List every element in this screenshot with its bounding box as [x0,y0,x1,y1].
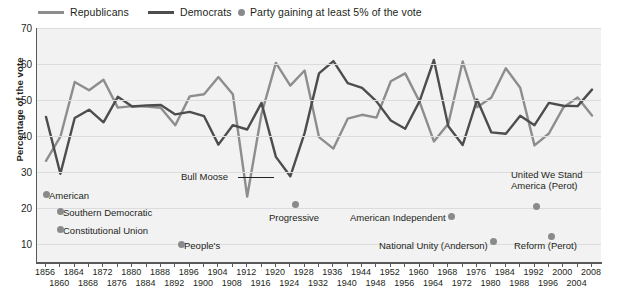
annotation-label-reform-perot: Reform (Perot) [514,241,577,252]
legend-item-republicans: Republicans [38,0,129,24]
annotation-line: People's [184,241,220,252]
annotation-dot-united-we-stand [533,203,540,210]
legend-label-democrats: Democrats [180,6,232,18]
x-label-1892: 1892 [164,278,184,288]
annotation-line: Bull Moose [181,172,228,183]
y-axis-tick-labels: 70605040302010 [0,28,32,262]
annotation-label-bull-moose: Bull Moose [181,172,228,183]
x-axis-labels-row-bottom: 1860186818761884189219001908191619241932… [36,278,602,290]
annotation-dot-peoples [178,241,185,248]
x-label-1964: 1964 [423,278,443,288]
y-tick-20: 20 [0,203,32,214]
x-label-1924: 1924 [279,278,299,288]
annotation-dot-american [43,191,50,198]
annotation-label-constitutional-union: Constitutional Union [63,226,148,237]
x-label-1976: 1976 [466,267,486,277]
legend-item-third-party: Party gaining at least 5% of the vote [238,0,422,24]
annotation-dot-constitutional-union [57,226,64,233]
annotation-line: Constitutional Union [63,226,148,237]
x-label-1988: 1988 [509,278,529,288]
annotation-line: America (Perot) [511,181,583,192]
x-label-1880: 1880 [121,267,141,277]
x-label-1912: 1912 [236,267,256,277]
annotation-label-united-we-stand: United We StandAmerica (Perot) [511,170,583,191]
x-label-1944: 1944 [351,267,371,277]
x-label-2004: 2004 [567,278,587,288]
annotation-dot-national-unity [490,238,497,245]
annotation-dot-american-independent [448,213,455,220]
annotation-leader-line-bull-moose [238,177,274,178]
x-label-1996: 1996 [538,278,558,288]
annotation-line: Progressive [269,213,319,224]
y-tick-30: 30 [0,167,32,178]
x-label-1968: 1968 [437,267,457,277]
x-label-1984: 1984 [495,267,515,277]
gridline-60 [37,64,601,65]
x-label-1916: 1916 [251,278,271,288]
legend-dot-swatch-third-party [238,9,245,16]
annotation-label-peoples: People's [184,241,220,252]
legend-label-republicans: Republicans [70,6,129,18]
legend-line-swatch-democrats [148,11,174,14]
x-label-1884: 1884 [136,278,156,288]
y-tick-10: 10 [0,239,32,250]
x-label-2000: 2000 [552,267,572,277]
x-label-1856: 1856 [35,267,55,277]
x-label-1896: 1896 [179,267,199,277]
figure-caption [20,296,610,304]
gridline-70 [37,28,601,29]
annotation-dot-southern-democratic [57,208,64,215]
y-tick-40: 40 [0,131,32,142]
y-tick-50: 50 [0,95,32,106]
x-label-1860: 1860 [49,278,69,288]
x-label-1908: 1908 [222,278,242,288]
annotation-line: Reform (Perot) [514,241,577,252]
x-label-1868: 1868 [78,278,98,288]
gridline-40 [37,136,601,137]
annotation-line: American [49,191,89,202]
legend-item-democrats: Democrats [148,0,232,24]
x-label-1928: 1928 [294,267,314,277]
annotation-label-national-unity: National Unity (Anderson) [379,241,488,252]
x-label-1936: 1936 [322,267,342,277]
x-label-1952: 1952 [380,267,400,277]
annotation-line: American Independent [350,213,446,224]
x-label-1864: 1864 [64,267,84,277]
annotation-line: Southern Democratic [63,208,152,219]
x-label-1900: 1900 [193,278,213,288]
line-democrats [46,60,592,176]
annotation-label-southern-democratic: Southern Democratic [63,208,152,219]
annotation-dot-progressive [292,201,299,208]
annotation-label-american: American [49,191,89,202]
x-label-1940: 1940 [337,278,357,288]
annotation-dot-reform-perot [548,233,555,240]
y-tick-60: 60 [0,59,32,70]
x-label-1980: 1980 [480,278,500,288]
x-label-1920: 1920 [265,267,285,277]
legend-line-swatch-republicans [38,11,64,14]
legend-label-third-party: Party gaining at least 5% of the vote [250,6,422,18]
chart-legend: Republicans Democrats Party gaining at l… [0,0,623,24]
annotation-line: National Unity (Anderson) [379,241,488,252]
gridline-50 [37,100,601,101]
x-label-1932: 1932 [308,278,328,288]
annotation-line: United We Stand [511,170,583,181]
x-label-1872: 1872 [92,267,112,277]
annotation-label-progressive: Progressive [269,213,319,224]
plot-area: AmericanSouthern DemocraticConstitutiona… [36,28,601,262]
x-label-1972: 1972 [452,278,472,288]
x-label-1960: 1960 [409,267,429,277]
x-label-1956: 1956 [394,278,414,288]
x-label-1992: 1992 [524,267,544,277]
x-label-2008: 2008 [581,267,601,277]
x-label-1876: 1876 [107,278,127,288]
chart-figure: Republicans Democrats Party gaining at l… [0,0,623,304]
x-label-1888: 1888 [150,267,170,277]
x-label-1904: 1904 [207,267,227,277]
annotation-label-american-independent: American Independent [350,213,446,224]
x-label-1948: 1948 [365,278,385,288]
y-tick-70: 70 [0,23,32,34]
